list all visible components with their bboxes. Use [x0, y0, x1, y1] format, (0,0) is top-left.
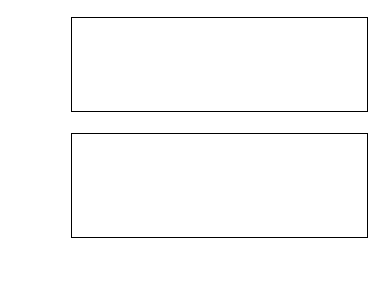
chart-panel-log [71, 133, 368, 238]
survivorship-figure [0, 0, 375, 300]
chart-panel-linear [71, 17, 368, 112]
plot-area-log [71, 133, 368, 238]
plot-area-linear [71, 17, 368, 112]
